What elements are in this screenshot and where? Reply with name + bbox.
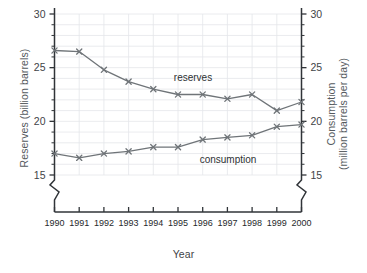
y-tick-label-right: 20 [311,115,323,127]
y-axis-title-right-line1: Consumption [325,24,337,204]
y-axis-right-spine [297,8,306,212]
y-tick-label-left: 20 [34,115,46,127]
y-tick-labels-left: 15202530 [34,8,46,181]
series-annotation-consumption: consumption [200,154,257,165]
y-tick-labels-right: 15202530 [311,8,323,181]
y-tick-label-right: 30 [311,8,323,20]
y-tick-label-right: 25 [311,61,323,73]
y-axis-left-spine [50,8,59,212]
x-tick-label: 1996 [193,218,213,228]
y-tick-label-left: 30 [34,8,46,20]
x-tick-label: 1994 [143,218,163,228]
y-tick-label-left: 15 [34,169,46,181]
x-tick-label: 1993 [119,218,139,228]
x-tick-label: 1997 [217,218,237,228]
y-axis-title-left: Reserves (billion barrels) [18,18,30,198]
y-axis-title-right: Consumption (million barrels per day) [325,24,349,204]
x-tick-label: 2000 [291,218,311,228]
x-tick-label: 1998 [242,218,262,228]
series-annotation-reserves: reserves [174,72,212,83]
series-annotations: reservesconsumption [174,72,257,165]
chart-plot-area: 15202530 15202530 1990199119921993199419… [0,0,367,273]
y-tick-label-left: 25 [34,61,46,73]
x-tick-label: 1992 [94,218,114,228]
x-tick-label: 1995 [168,218,188,228]
y-axis-title-right-line2: (million barrels per day) [337,24,349,204]
x-tick-label: 1990 [44,218,64,228]
x-axis-title: Year [0,248,367,260]
x-tick-label: 1991 [69,218,89,228]
x-tick-label: 1999 [267,218,287,228]
oil-reserves-consumption-chart: 15202530 15202530 1990199119921993199419… [0,0,367,273]
y-tick-label-right: 15 [311,169,323,181]
x-tick-labels: 1990199119921993199419951996199719981999… [44,218,311,228]
